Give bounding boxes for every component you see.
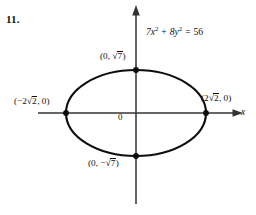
- x-axis-label: x: [241, 108, 245, 118]
- equation-term1: 7x2: [146, 26, 158, 37]
- y-axis-arrow-icon: [132, 5, 140, 16]
- vertex-point-top: [133, 67, 139, 73]
- vertex-point-bottom: [133, 153, 139, 159]
- origin-label: 0: [118, 113, 123, 122]
- vertex-label-right: (2√2, 0): [201, 93, 231, 104]
- figure-page: 11. 7x2+8y2=56 (0, √7) (−2√2, 0) (2√2, 0…: [0, 0, 256, 215]
- vertex-label-top: (0, √7): [100, 51, 126, 62]
- equation-plus: +: [161, 26, 166, 37]
- vertex-point-right: [203, 110, 209, 116]
- equation-equals: =: [185, 26, 190, 37]
- vertex-label-bottom: (0, −√7): [88, 158, 119, 169]
- equation-term2: 8y2: [170, 26, 182, 37]
- equation-rhs: 56: [194, 26, 204, 37]
- ellipse-graph: [0, 0, 256, 215]
- equation-annotation: 7x2+8y2=56: [146, 26, 203, 37]
- vertex-label-left: (−2√2, 0): [14, 96, 49, 107]
- vertex-point-left: [63, 110, 69, 116]
